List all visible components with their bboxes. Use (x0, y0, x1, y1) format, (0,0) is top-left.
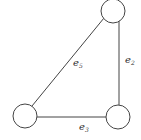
graph-diagram: e5 e2 e3 (0, 0, 141, 140)
edge-e5 (32, 18, 104, 106)
node-bottom-left (13, 104, 37, 128)
node-top (101, 0, 125, 23)
edge-label-e5: e5 (73, 57, 83, 69)
node-bottom-right (106, 105, 130, 129)
edge-label-e3: e3 (79, 121, 89, 133)
edge-label-e2: e2 (125, 54, 135, 66)
